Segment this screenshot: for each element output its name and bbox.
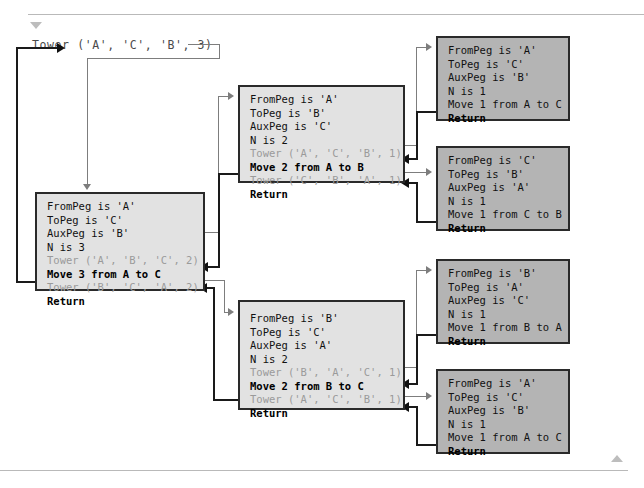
return-leaf3-line-v	[416, 406, 418, 445]
return-leaf0-line-v	[416, 111, 418, 159]
frame-line-move: Move 1 from A to C	[448, 98, 560, 112]
frame-line-frompeg: FromPeg is 'B'	[250, 312, 395, 326]
frame-line-n: N is 2	[250, 134, 395, 148]
frame-line-move: Move 1 from C to B	[448, 208, 560, 222]
frame-line-topeg: ToPeg is 'C'	[448, 391, 560, 405]
stack-frame-leaf-3[interactable]: FromPeg is 'A' ToPeg is 'C' AuxPeg is 'B…	[436, 369, 570, 454]
frame-line-auxpeg: AuxPeg is 'C'	[250, 120, 395, 134]
call-leaf2-arrowhead	[426, 266, 432, 274]
frame-line-return: Return	[448, 445, 560, 459]
return-ab-line-h1	[218, 173, 238, 175]
return-leaf2-line-h2	[409, 383, 418, 385]
return-ab-line-h2	[208, 266, 220, 268]
frame-line-frompeg: FromPeg is 'A'	[250, 93, 395, 107]
frame-line-call-1: Tower ('A', 'C', 'B', 1)	[250, 147, 395, 161]
frame-line-auxpeg: AuxPeg is 'A'	[448, 181, 560, 195]
frame-line-frompeg: FromPeg is 'B'	[448, 267, 560, 281]
root-call-line-v1	[219, 44, 220, 59]
return-leaf1-line-h2	[409, 182, 418, 184]
return-leaf3-line-h2	[409, 406, 418, 408]
frame-line-return: Return	[250, 188, 395, 202]
root-call-line-h1	[188, 44, 220, 45]
frame-line-call-2: Tower ('A', 'C', 'B', 1)	[250, 393, 395, 407]
call-leaf3-arrowhead	[426, 392, 432, 400]
frame-line-n: N is 1	[448, 195, 560, 209]
frame-line-auxpeg: AuxPeg is 'A'	[250, 339, 395, 353]
frame-line-frompeg: FromPeg is 'C'	[448, 154, 560, 168]
call-bc-arrowhead	[228, 308, 234, 316]
stack-frame-tower-b-c-a-2[interactable]: FromPeg is 'B' ToPeg is 'C' AuxPeg is 'A…	[238, 300, 405, 410]
call-ab-line-h1	[205, 232, 219, 233]
call-ab-arrowhead	[228, 92, 234, 100]
frame-line-topeg: ToPeg is 'B'	[250, 107, 395, 121]
return-leaf0-line-h1	[416, 111, 436, 113]
root-call-line-v2	[87, 58, 88, 184]
return-leaf2-line-v	[416, 334, 418, 384]
frame-line-move: Move 1 from A to C	[448, 431, 560, 445]
main-return-line-top	[16, 47, 58, 49]
frame-line-auxpeg: AuxPeg is 'B'	[448, 404, 560, 418]
frame-line-auxpeg: AuxPeg is 'C'	[448, 294, 560, 308]
frame-line-return: Return	[250, 407, 395, 421]
frame-line-n: N is 1	[448, 418, 560, 432]
return-leaf3-line-h1	[416, 444, 436, 446]
top-divider	[28, 14, 644, 15]
bottom-divider	[0, 470, 628, 471]
frame-line-n: N is 1	[448, 308, 560, 322]
root-call-line-h2	[87, 58, 220, 59]
call-leaf3-line-h	[405, 396, 427, 397]
stack-frame-leaf-0[interactable]: FromPeg is 'A' ToPeg is 'C' AuxPeg is 'B…	[436, 36, 570, 121]
frame-line-move: Move 2 from B to C	[250, 380, 395, 394]
stack-frame-tower-a-b-c-2[interactable]: FromPeg is 'A' ToPeg is 'B' AuxPeg is 'C…	[238, 85, 405, 183]
frame-line-topeg: ToPeg is 'B'	[448, 168, 560, 182]
main-return-arrowhead	[57, 43, 65, 53]
call-leaf0-arrowhead	[426, 43, 432, 51]
root-call-arrowhead	[83, 184, 91, 190]
call-leaf1-arrowhead	[426, 168, 432, 176]
call-bc-line-h1	[205, 280, 225, 281]
frame-line-return: Return	[448, 222, 560, 236]
frame-line-frompeg: FromPeg is 'A'	[448, 377, 560, 391]
return-leaf0-line-h2	[409, 158, 418, 160]
main-return-line-v	[16, 47, 18, 282]
stack-frame-tower-a-c-b-3[interactable]: FromPeg is 'A' ToPeg is 'C' AuxPeg is 'B…	[35, 192, 205, 291]
frame-line-return: Return	[448, 112, 560, 126]
triangle-down-icon	[30, 22, 42, 29]
frame-line-auxpeg: AuxPeg is 'B'	[448, 71, 560, 85]
triangle-up-icon	[611, 455, 623, 462]
frame-line-call-1: Tower ('B', 'A', 'C', 1)	[250, 366, 395, 380]
frame-line-call-2: Tower ('C', 'B', 'A', 1)	[250, 174, 395, 188]
frame-line-n: N is 2	[250, 353, 395, 367]
frame-line-n: N is 1	[448, 85, 560, 99]
stack-frame-leaf-2[interactable]: FromPeg is 'B' ToPeg is 'A' AuxPeg is 'C…	[436, 259, 570, 344]
frame-line-move: Move 2 from A to B	[250, 161, 395, 175]
frame-line-topeg: ToPeg is 'C'	[448, 58, 560, 72]
frame-line-topeg: ToPeg is 'C'	[250, 326, 395, 340]
return-bc-line-v	[213, 287, 215, 400]
return-leaf2-line-h1	[416, 334, 436, 336]
frame-line-topeg: ToPeg is 'C'	[47, 214, 195, 228]
frame-line-return: Return	[448, 335, 560, 349]
frame-line-n: N is 3	[47, 241, 195, 255]
frame-line-auxpeg: AuxPeg is 'B'	[47, 227, 195, 241]
call-bc-line-v	[224, 280, 225, 313]
call-leaf1-line-h	[405, 172, 427, 173]
return-bc-line-h1	[213, 399, 238, 401]
frame-line-frompeg: FromPeg is 'A'	[47, 200, 195, 214]
return-leaf1-line-h1	[416, 221, 436, 223]
main-return-line-h	[16, 281, 36, 283]
frame-line-return: Return	[47, 295, 195, 309]
return-leaf1-line-v	[416, 182, 418, 222]
return-bc-line-h2	[207, 287, 215, 289]
frame-line-frompeg: FromPeg is 'A'	[448, 44, 560, 58]
stack-frame-leaf-1[interactable]: FromPeg is 'C' ToPeg is 'B' AuxPeg is 'A…	[436, 146, 570, 231]
frame-line-topeg: ToPeg is 'A'	[448, 281, 560, 295]
recursion-diagram-canvas: Tower ('A', 'C', 'B', 3)	[0, 0, 644, 488]
frame-line-move: Move 1 from B to A	[448, 321, 560, 335]
frame-line-move: Move 3 from A to C	[47, 268, 195, 282]
frame-line-call-2: Tower ('B', 'C', 'A', 2)	[47, 281, 195, 295]
frame-line-call-1: Tower ('A', 'B', 'C', 2)	[47, 254, 195, 268]
return-ab-line-v	[218, 173, 220, 267]
